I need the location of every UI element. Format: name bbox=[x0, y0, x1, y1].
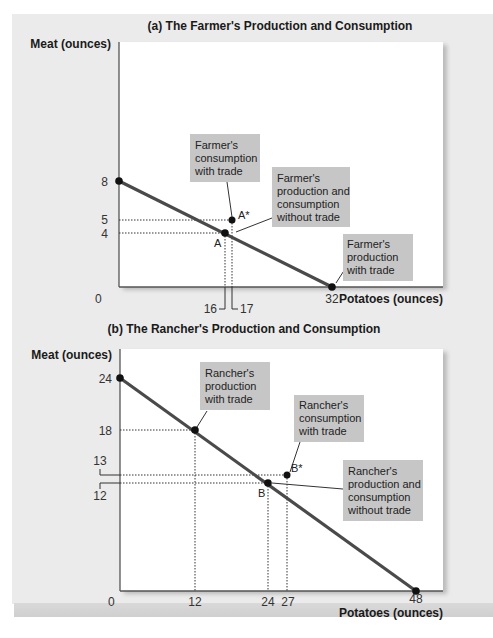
panel-b-ytick-13-leader bbox=[100, 469, 120, 475]
panel-a-xtick-32: 32 bbox=[325, 292, 339, 306]
panel-a-label-A-star: A* bbox=[238, 209, 250, 221]
panel-b-label-B: B bbox=[258, 487, 265, 499]
svg-text:Farmer's: Farmer's bbox=[277, 172, 321, 184]
svg-text:consumption: consumption bbox=[277, 198, 339, 210]
svg-text:consumption: consumption bbox=[348, 491, 410, 503]
panel-a-xtick-17: 17 bbox=[240, 302, 254, 316]
panel-b-callout-without-trade: Rancher's production and consumption wit… bbox=[343, 460, 423, 521]
panel-b-point-B-star bbox=[284, 472, 291, 479]
panel-a-callout-without-trade: Farmer's production and consumption with… bbox=[272, 167, 350, 227]
panel-b-ytick-24: 24 bbox=[99, 372, 113, 386]
svg-text:without trade: without trade bbox=[347, 504, 411, 516]
svg-text:Farmer's: Farmer's bbox=[195, 139, 239, 151]
panel-a-xtick-16-leader bbox=[219, 287, 225, 309]
svg-text:Rancher's: Rancher's bbox=[299, 399, 349, 411]
panel-b-ytick-12: 12 bbox=[93, 489, 107, 503]
svg-text:Rancher's: Rancher's bbox=[205, 367, 255, 379]
svg-text:with trade: with trade bbox=[298, 425, 347, 437]
panel-a-ytick-8: 8 bbox=[101, 175, 108, 189]
svg-text:consumption: consumption bbox=[195, 152, 257, 164]
svg-text:Farmer's: Farmer's bbox=[347, 238, 391, 250]
panel-b-ytick-18: 18 bbox=[99, 424, 113, 438]
svg-text:with trade: with trade bbox=[204, 393, 253, 405]
panel-a-ytick-4: 4 bbox=[101, 227, 108, 241]
panel-b-callout-production-with-trade: Rancher's production with trade bbox=[200, 362, 270, 410]
panel-a-callout-production-with-trade: Farmer's production with trade bbox=[343, 234, 413, 281]
panel-a: (a) The Farmer's Production and Consumpt… bbox=[30, 19, 443, 316]
panel-a-point-A-star bbox=[229, 217, 236, 224]
svg-text:with trade: with trade bbox=[346, 264, 395, 276]
panel-a-label-A: A bbox=[214, 237, 222, 249]
panel-a-callout-consumption-with-trade: Farmer's consumption with trade bbox=[190, 134, 260, 182]
panel-b-point-x-intercept bbox=[412, 587, 420, 595]
panel-a-ytick-5: 5 bbox=[101, 213, 108, 227]
svg-text:production and: production and bbox=[277, 185, 350, 197]
svg-text:production and: production and bbox=[348, 478, 421, 490]
panel-b-xtick-12: 12 bbox=[188, 595, 202, 609]
panel-b-title: (b) The Rancher's Production and Consump… bbox=[108, 322, 381, 336]
panel-b: (b) The Rancher's Production and Consump… bbox=[31, 322, 443, 620]
panel-b-point-B bbox=[264, 479, 272, 487]
panel-a-origin: 0 bbox=[95, 292, 102, 306]
panel-a-point-A bbox=[221, 229, 229, 237]
panel-a-xtick-17-leader bbox=[232, 287, 238, 309]
figure: (a) The Farmer's Production and Consumpt… bbox=[0, 0, 493, 638]
panel-b-point-production-with-trade bbox=[191, 426, 199, 434]
svg-text:without trade: without trade bbox=[276, 211, 340, 223]
panel-a-xtick-16: 16 bbox=[204, 302, 218, 316]
panel-b-origin: 0 bbox=[108, 595, 115, 609]
svg-text:with trade: with trade bbox=[194, 165, 243, 177]
panel-a-title: (a) The Farmer's Production and Consumpt… bbox=[148, 19, 413, 33]
svg-text:consumption: consumption bbox=[299, 412, 361, 424]
svg-text:production: production bbox=[205, 380, 256, 392]
panel-b-y-label: Meat (ounces) bbox=[31, 348, 112, 362]
panel-b-x-label: Potatoes (ounces) bbox=[339, 606, 443, 620]
panel-a-point-y-intercept bbox=[115, 177, 123, 185]
panel-b-point-y-intercept bbox=[116, 374, 124, 382]
panel-a-x-label: Potatoes (ounces) bbox=[339, 292, 443, 306]
panel-b-label-B-star: B* bbox=[291, 462, 303, 474]
panel-b-callout-consumption-with-trade: Rancher's consumption with trade bbox=[294, 395, 364, 442]
svg-text:production: production bbox=[347, 251, 398, 263]
panel-b-xtick-27: 27 bbox=[281, 595, 295, 609]
panel-b-xtick-24: 24 bbox=[261, 595, 275, 609]
svg-text:Rancher's: Rancher's bbox=[348, 465, 398, 477]
panel-a-y-label: Meat (ounces) bbox=[30, 37, 111, 51]
panel-b-ytick-13: 13 bbox=[93, 454, 107, 468]
panel-a-point-x-intercept bbox=[328, 283, 336, 291]
